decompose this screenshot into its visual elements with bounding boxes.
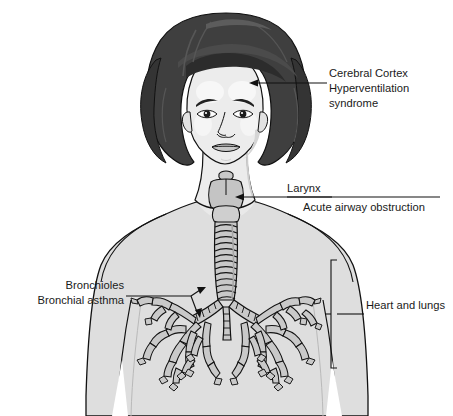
left-eye <box>197 110 217 118</box>
anatomy-figure: Cerebral Cortex Hyperventilation syndrom… <box>0 0 453 416</box>
label-bronchial-asthma: Bronchial asthma <box>38 294 125 306</box>
anatomy-illustration: Cerebral Cortex Hyperventilation syndrom… <box>0 0 453 416</box>
label-larynx: Larynx <box>287 182 321 194</box>
label-cerebral-cortex-line2: Hyperventilation <box>329 82 409 94</box>
label-acute-airway-obstruction: Acute airway obstruction <box>303 201 425 213</box>
label-heart-and-lungs: Heart and lungs <box>366 299 445 311</box>
label-cerebral-cortex-line3: syndrome <box>329 97 378 109</box>
label-cerebral-cortex-line1: Cerebral Cortex <box>329 67 408 79</box>
cricoid-cartilage <box>213 206 240 224</box>
trachea-group <box>215 222 238 300</box>
right-eye <box>233 110 253 118</box>
label-bronchioles: Bronchioles <box>66 279 125 291</box>
